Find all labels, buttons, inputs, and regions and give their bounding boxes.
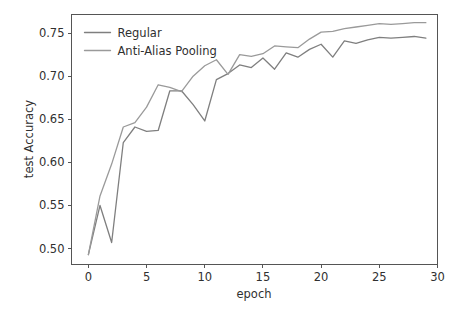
- series-line-0: [88, 36, 425, 254]
- x-axis-label: epoch: [236, 287, 271, 301]
- y-tick-label: 0.70: [39, 69, 65, 83]
- x-tick-label: 30: [430, 270, 445, 284]
- x-tick-label: 5: [143, 270, 150, 284]
- x-tick-label: 10: [197, 270, 212, 284]
- x-tick-label: 25: [372, 270, 387, 284]
- chart-legend: RegularAnti-Alias Pooling: [85, 26, 217, 58]
- x-axis-ticks: 051015202530: [85, 265, 445, 284]
- y-tick-label: 0.50: [39, 242, 65, 256]
- chart-figure: 051015202530 0.500.550.600.650.700.75 Re…: [0, 0, 462, 315]
- y-tick-label: 0.55: [39, 198, 65, 212]
- line-chart: 051015202530 0.500.550.600.650.700.75 Re…: [0, 0, 462, 315]
- y-tick-label: 0.75: [39, 26, 65, 40]
- legend-label-1: Anti-Alias Pooling: [118, 44, 217, 58]
- y-axis-ticks: 0.500.550.600.650.700.75: [39, 26, 72, 256]
- y-tick-label: 0.60: [39, 155, 65, 169]
- x-tick-label: 0: [85, 270, 92, 284]
- y-axis-label: test Accuracy: [22, 100, 36, 178]
- y-tick-label: 0.65: [39, 112, 65, 126]
- x-tick-label: 20: [314, 270, 329, 284]
- legend-label-0: Regular: [118, 26, 162, 40]
- x-tick-label: 15: [256, 270, 271, 284]
